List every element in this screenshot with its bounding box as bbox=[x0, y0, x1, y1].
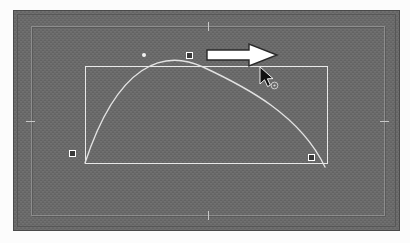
handle-top-center[interactable] bbox=[186, 52, 193, 59]
frame-tick-bottom-icon bbox=[208, 211, 209, 220]
frame-tick-left-icon bbox=[26, 121, 35, 122]
path-point-dot[interactable] bbox=[142, 53, 146, 57]
handle-bottom-right[interactable] bbox=[308, 154, 315, 161]
screenshot-root bbox=[0, 0, 410, 243]
selection-bounding-box[interactable] bbox=[85, 66, 328, 164]
handle-bottom-left[interactable] bbox=[69, 150, 76, 157]
canvas-artboard[interactable] bbox=[13, 10, 400, 231]
frame-tick-top-icon bbox=[208, 22, 209, 31]
frame-tick-right-icon bbox=[380, 121, 389, 122]
